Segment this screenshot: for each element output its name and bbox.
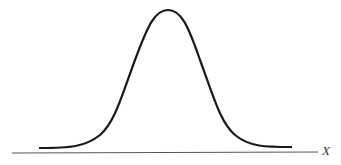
- x-axis: [12, 152, 318, 153]
- normal-curve-diagram: X: [0, 0, 341, 165]
- x-axis-label: X: [321, 143, 331, 158]
- bell-curve: [39, 10, 292, 148]
